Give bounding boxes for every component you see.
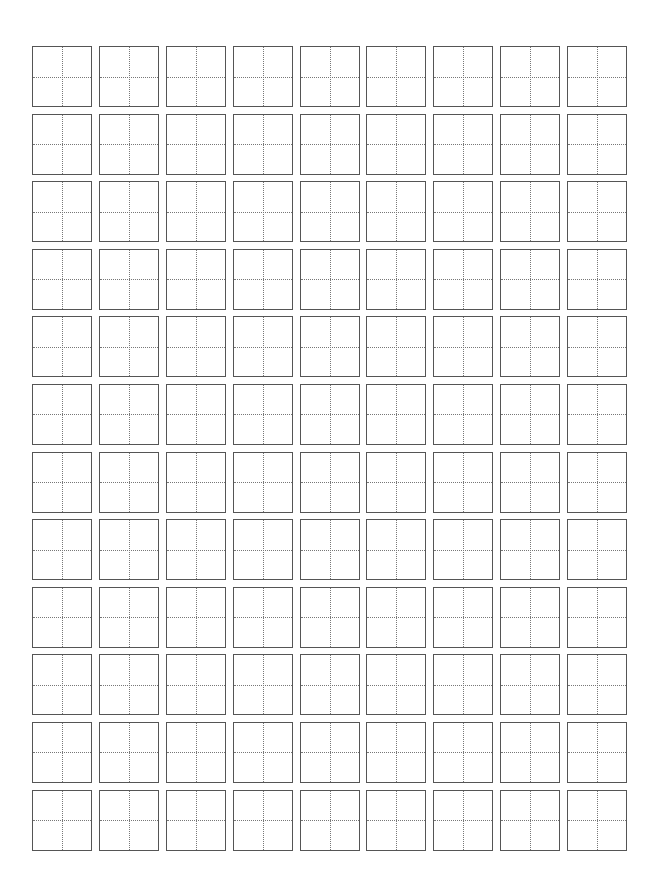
tianzige-cell: [500, 249, 560, 310]
horizontal-guide-line: [301, 752, 359, 753]
horizontal-guide-line: [301, 617, 359, 618]
tianzige-cell: [300, 114, 360, 175]
tianzige-cell: [433, 722, 493, 783]
horizontal-guide-line: [367, 212, 425, 213]
horizontal-guide-line: [301, 685, 359, 686]
horizontal-guide-line: [434, 752, 492, 753]
tianzige-cell: [366, 181, 426, 242]
horizontal-guide-line: [501, 77, 559, 78]
horizontal-guide-line: [568, 347, 626, 348]
horizontal-guide-line: [100, 77, 158, 78]
tianzige-cell: [433, 654, 493, 715]
tianzige-cell: [99, 114, 159, 175]
tianzige-cell: [500, 790, 560, 851]
horizontal-guide-line: [234, 347, 292, 348]
horizontal-guide-line: [33, 617, 91, 618]
horizontal-guide-line: [434, 279, 492, 280]
horizontal-guide-line: [234, 752, 292, 753]
tianzige-cell: [99, 181, 159, 242]
horizontal-guide-line: [367, 550, 425, 551]
horizontal-guide-line: [568, 144, 626, 145]
horizontal-guide-line: [100, 820, 158, 821]
horizontal-guide-line: [301, 77, 359, 78]
tianzige-cell: [500, 452, 560, 513]
horizontal-guide-line: [568, 482, 626, 483]
horizontal-guide-line: [301, 550, 359, 551]
tianzige-cell: [433, 587, 493, 648]
horizontal-guide-line: [33, 414, 91, 415]
horizontal-guide-line: [33, 347, 91, 348]
tianzige-cell: [32, 384, 92, 445]
horizontal-guide-line: [234, 482, 292, 483]
tianzige-cell: [32, 654, 92, 715]
horizontal-guide-line: [568, 617, 626, 618]
horizontal-guide-line: [301, 347, 359, 348]
tianzige-cell: [500, 181, 560, 242]
tianzige-cell: [567, 654, 627, 715]
horizontal-guide-line: [568, 550, 626, 551]
tianzige-cell: [300, 452, 360, 513]
tianzige-cell: [166, 654, 226, 715]
tianzige-cell: [500, 587, 560, 648]
horizontal-guide-line: [434, 144, 492, 145]
tianzige-cell: [233, 316, 293, 377]
horizontal-guide-line: [367, 685, 425, 686]
tianzige-cell: [166, 587, 226, 648]
tianzige-cell: [233, 114, 293, 175]
tianzige-cell: [366, 790, 426, 851]
tianzige-cell: [166, 46, 226, 107]
horizontal-guide-line: [301, 279, 359, 280]
horizontal-guide-line: [501, 482, 559, 483]
horizontal-guide-line: [367, 347, 425, 348]
horizontal-guide-line: [501, 212, 559, 213]
horizontal-guide-line: [367, 279, 425, 280]
horizontal-guide-line: [167, 347, 225, 348]
tianzige-cell: [99, 519, 159, 580]
horizontal-guide-line: [167, 414, 225, 415]
tianzige-cell: [366, 452, 426, 513]
horizontal-guide-line: [501, 685, 559, 686]
tianzige-cell: [99, 790, 159, 851]
horizontal-guide-line: [568, 77, 626, 78]
horizontal-guide-line: [434, 347, 492, 348]
tianzige-cell: [300, 790, 360, 851]
horizontal-guide-line: [234, 279, 292, 280]
horizontal-guide-line: [234, 414, 292, 415]
tianzige-cell: [433, 114, 493, 175]
tianzige-cell: [166, 316, 226, 377]
horizontal-guide-line: [301, 144, 359, 145]
horizontal-guide-line: [367, 144, 425, 145]
horizontal-guide-line: [33, 482, 91, 483]
horizontal-guide-line: [501, 550, 559, 551]
tianzige-cell: [99, 654, 159, 715]
horizontal-guide-line: [568, 414, 626, 415]
horizontal-guide-line: [167, 279, 225, 280]
horizontal-guide-line: [367, 414, 425, 415]
tianzige-cell: [567, 452, 627, 513]
horizontal-guide-line: [167, 212, 225, 213]
horizontal-guide-line: [234, 550, 292, 551]
horizontal-guide-line: [234, 820, 292, 821]
tianzige-cell: [567, 181, 627, 242]
horizontal-guide-line: [33, 550, 91, 551]
horizontal-guide-line: [568, 752, 626, 753]
horizontal-guide-line: [100, 212, 158, 213]
horizontal-guide-line: [501, 752, 559, 753]
tianzige-cell: [233, 587, 293, 648]
tianzige-cell: [233, 722, 293, 783]
horizontal-guide-line: [167, 820, 225, 821]
tianzige-cell: [433, 519, 493, 580]
horizontal-guide-line: [234, 144, 292, 145]
tianzige-cell: [233, 249, 293, 310]
horizontal-guide-line: [100, 617, 158, 618]
tianzige-cell: [433, 249, 493, 310]
tianzige-cell: [366, 114, 426, 175]
horizontal-guide-line: [167, 482, 225, 483]
horizontal-guide-line: [234, 77, 292, 78]
tianzige-cell: [166, 181, 226, 242]
horizontal-guide-line: [568, 279, 626, 280]
tianzige-cell: [300, 654, 360, 715]
horizontal-guide-line: [434, 212, 492, 213]
tianzige-cell: [32, 181, 92, 242]
tianzige-cell: [32, 587, 92, 648]
